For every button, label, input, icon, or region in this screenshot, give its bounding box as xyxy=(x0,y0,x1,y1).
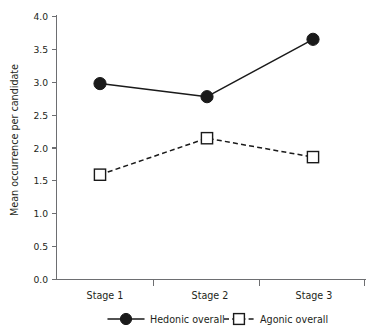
y-tick-label: 4.0 xyxy=(33,11,48,22)
y-tick-label: 2.0 xyxy=(33,143,48,154)
agonic-marker-stage-2 xyxy=(201,133,212,144)
legend-item-agonic-overall[interactable]: Agonic overall xyxy=(224,314,328,325)
x-tick-label-stage-2: Stage 2 xyxy=(192,290,229,301)
legend-agonic-label: Agonic overall xyxy=(260,314,328,325)
agonic-marker-stage-1 xyxy=(94,169,105,180)
legend-hedonic-label: Hedonic overall xyxy=(150,314,225,325)
y-tick-label: 0.0 xyxy=(33,274,48,285)
legend-item-hedonic-overall[interactable]: Hedonic overall xyxy=(108,313,225,324)
series-agonic-overall xyxy=(94,133,318,181)
hedonic-line xyxy=(100,39,313,96)
x-label-group: Stage 1 Stage 2 Stage 3 xyxy=(87,290,333,301)
chart-figure: Mean occurrence per candidate 4.0 3.5 3.… xyxy=(0,0,377,332)
y-tick-label: 3.0 xyxy=(33,77,48,88)
x-tick-label-stage-3: Stage 3 xyxy=(296,290,333,301)
legend-agonic-marker-icon xyxy=(234,314,245,325)
y-tick-label: 2.5 xyxy=(33,110,48,121)
y-tick-label: 3.5 xyxy=(33,44,48,55)
y-axis-title: Mean occurrence per candidate xyxy=(9,64,20,216)
x-tick-label-stage-1: Stage 1 xyxy=(87,290,124,301)
x-tick-group xyxy=(154,280,365,287)
chart-legend: Hedonic overall Agonic overall xyxy=(108,313,328,324)
series-hedonic-overall xyxy=(94,33,319,103)
y-tick-label: 1.0 xyxy=(33,208,48,219)
hedonic-marker-stage-1 xyxy=(94,78,106,90)
legend-hedonic-marker-icon xyxy=(120,313,131,324)
y-tick-label: 1.5 xyxy=(33,175,48,186)
hedonic-marker-stage-3 xyxy=(307,33,319,45)
hedonic-marker-stage-2 xyxy=(201,91,213,103)
y-tick-label: 0.5 xyxy=(33,241,48,252)
line-chart: Mean occurrence per candidate 4.0 3.5 3.… xyxy=(0,0,377,332)
y-tick-group: 4.0 3.5 3.0 2.5 2.0 1.5 1.0 0.5 0.0 xyxy=(33,11,56,285)
agonic-marker-stage-3 xyxy=(307,152,318,163)
